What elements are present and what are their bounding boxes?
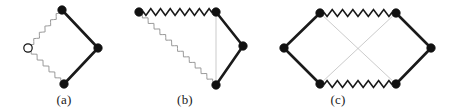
edge-top-left-to-top-right-zigzag-bond: [139, 9, 216, 16]
panel-b: [135, 8, 247, 89]
edge-bottom-left-to-left-solid-bond: [284, 48, 320, 84]
edge-left-to-top-left-solid-bond: [284, 13, 320, 48]
panel-a: [24, 6, 102, 88]
vertex-a-left-hollow: [24, 44, 32, 52]
vertex-c-top-right-filled: [392, 9, 400, 17]
edge-right-to-bottom-right-solid-bond: [396, 48, 431, 84]
panel-label-a: (a): [44, 93, 84, 106]
panel-label-c: (c): [318, 93, 358, 106]
vertex-a-bottom-filled: [60, 80, 68, 88]
vertex-a-top-filled: [58, 6, 66, 14]
edge-top-left-to-top-right-zigzag-bond: [320, 10, 396, 17]
figure-container: (a) (b) (c): [0, 0, 451, 112]
vertex-c-right-filled: [427, 44, 435, 52]
vertex-b-bottom-filled: [212, 81, 220, 89]
vertex-b-right-filled: [239, 42, 247, 50]
edge-bottom-to-left-zigzag-bond: [28, 48, 64, 84]
panel-c: [280, 9, 435, 88]
edge-top-right-to-right-solid-bond: [216, 12, 243, 46]
vertex-b-top-left-filled: [135, 8, 143, 16]
edge-top-right-to-right-solid-bond: [396, 13, 431, 48]
edge-right-to-bottom-solid-bond: [216, 46, 243, 85]
edge-left-to-top-zigzag-bond: [28, 10, 62, 48]
edge-bottom-right-to-bottom-left-zigzag-bond: [320, 81, 396, 88]
edge-bottom-to-top-left-zigzag-bond: [139, 12, 216, 85]
vertex-b-top-right-filled: [212, 8, 220, 16]
panel-label-b: (b): [165, 93, 205, 106]
vertex-c-left-filled: [280, 44, 288, 52]
vertex-c-bottom-left-filled: [316, 80, 324, 88]
edge-right-to-bottom-solid-bond: [64, 48, 98, 84]
vertex-a-right-filled: [94, 44, 102, 52]
vertex-c-top-left-filled: [316, 9, 324, 17]
edge-top-to-right-solid-bond: [62, 10, 98, 48]
vertex-c-bottom-right-filled: [392, 80, 400, 88]
